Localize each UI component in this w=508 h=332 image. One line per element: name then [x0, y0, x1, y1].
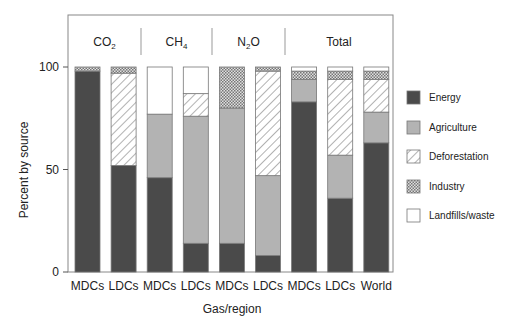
bar-6 [292, 67, 317, 272]
group-header-label: N2O [237, 35, 259, 51]
bar-8 [364, 67, 389, 272]
x-tick-label: MDCs [71, 279, 104, 293]
group-headers: CO2CH4N2OTotal [93, 28, 351, 55]
bar-segment-landfills-waste [292, 67, 317, 71]
bar-segment-agriculture [219, 108, 244, 243]
legend-label: Industry [429, 181, 465, 192]
y-tick-label: 100 [39, 60, 59, 74]
bar-segment-agriculture [328, 155, 353, 198]
legend-swatch [407, 180, 420, 193]
bar-segment-energy [292, 102, 317, 272]
y-axis-label: Percent by source [17, 121, 31, 218]
bar-segment-industry [75, 67, 100, 71]
bar-segment-energy [364, 143, 389, 272]
bar-segment-deforestation [111, 73, 136, 165]
stacked-bar-chart: CO2CH4N2OTotal 050100 MDCsLDCsMDCsLDCsMD… [0, 0, 508, 332]
legend-item-energy: Energy [407, 91, 461, 104]
bar-3 [183, 67, 208, 272]
x-axis-label: Gas/region [203, 302, 262, 316]
bar-segment-landfills-waste [328, 67, 353, 71]
group-header-label: CO2 [93, 35, 116, 51]
x-tick-label: World [361, 279, 392, 293]
bar-segment-energy [147, 178, 172, 272]
bar-segment-deforestation [183, 94, 208, 117]
bar-segment-landfills-waste [147, 67, 172, 114]
x-axis: MDCsLDCsMDCsLDCsMDCsLDCsMDCsLDCsWorld [71, 279, 392, 293]
bar-segment-energy [75, 71, 100, 272]
bar-segment-agriculture [292, 79, 317, 102]
bar-segment-energy [183, 243, 208, 272]
bar-segment-agriculture [147, 114, 172, 178]
legend-label: Landfills/waste [429, 210, 495, 221]
legend-swatch [407, 91, 420, 104]
bars [75, 67, 389, 272]
bar-2 [147, 67, 172, 272]
x-tick-label: MDCs [215, 279, 248, 293]
bar-segment-deforestation [256, 71, 281, 176]
legend-item-agriculture: Agriculture [407, 121, 477, 134]
bar-segment-industry [219, 67, 244, 108]
group-header-label: Total [326, 35, 351, 49]
group-header-label: CH4 [166, 35, 188, 51]
x-tick-label: MDCs [143, 279, 176, 293]
legend-item-deforestation: Deforestation [407, 150, 488, 163]
legend: EnergyAgricultureDeforestationIndustryLa… [407, 91, 495, 222]
x-tick-label: LDCs [325, 279, 355, 293]
bar-segment-industry [256, 67, 281, 71]
y-tick-label: 50 [46, 163, 60, 177]
bar-5 [256, 67, 281, 272]
bar-segment-landfills-waste [364, 67, 389, 71]
y-tick-label: 0 [52, 265, 59, 279]
bar-segment-deforestation [328, 79, 353, 155]
x-tick-label: LDCs [181, 279, 211, 293]
bar-segment-energy [256, 256, 281, 272]
legend-label: Agriculture [429, 122, 477, 133]
legend-label: Energy [429, 92, 461, 103]
legend-label: Deforestation [429, 151, 488, 162]
bar-segment-energy [111, 165, 136, 272]
legend-item-landfills-waste: Landfills/waste [407, 209, 495, 222]
legend-swatch [407, 209, 420, 222]
bar-segment-industry [364, 71, 389, 79]
x-tick-label: LDCs [253, 279, 283, 293]
x-tick-label: MDCs [287, 279, 320, 293]
bar-segment-landfills-waste [183, 67, 208, 94]
bar-segment-industry [111, 67, 136, 73]
bar-segment-energy [219, 243, 244, 272]
bar-segment-agriculture [256, 176, 281, 256]
bar-segment-industry [292, 71, 317, 79]
legend-swatch [407, 150, 420, 163]
bar-segment-agriculture [183, 116, 208, 243]
bar-4 [219, 67, 244, 272]
legend-item-industry: Industry [407, 180, 465, 193]
bar-segment-deforestation [364, 79, 389, 112]
x-tick-label: LDCs [109, 279, 139, 293]
bar-segment-energy [328, 198, 353, 272]
bar-0 [75, 67, 100, 272]
bar-7 [328, 67, 353, 272]
legend-swatch [407, 121, 420, 134]
bar-segment-agriculture [364, 112, 389, 143]
bar-segment-industry [328, 71, 353, 79]
bar-1 [111, 67, 136, 272]
y-axis: 050100 [39, 60, 68, 279]
